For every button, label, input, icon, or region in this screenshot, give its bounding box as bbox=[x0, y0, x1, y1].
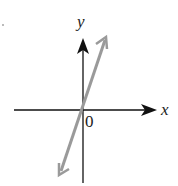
origin-label: 0 bbox=[85, 112, 94, 131]
y-axis-label: y bbox=[75, 12, 85, 31]
x-axis-label: x bbox=[160, 100, 169, 119]
stray-dot bbox=[2, 24, 4, 26]
coordinate-diagram: y x 0 bbox=[0, 0, 178, 186]
